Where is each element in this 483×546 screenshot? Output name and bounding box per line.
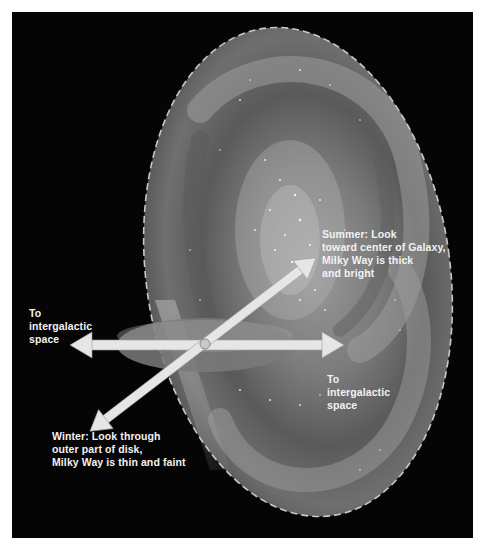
winter-label: Winter: Look through outer part of disk,… xyxy=(52,430,186,469)
diagram-panel: To intergalactic space To intergalactic … xyxy=(12,12,473,538)
sun-marker xyxy=(200,339,210,349)
summer-label: Summer: Look toward center of Galaxy, Mi… xyxy=(322,228,446,280)
right-space-label: To intergalactic space xyxy=(327,373,390,412)
left-space-label: To intergalactic space xyxy=(29,307,92,346)
